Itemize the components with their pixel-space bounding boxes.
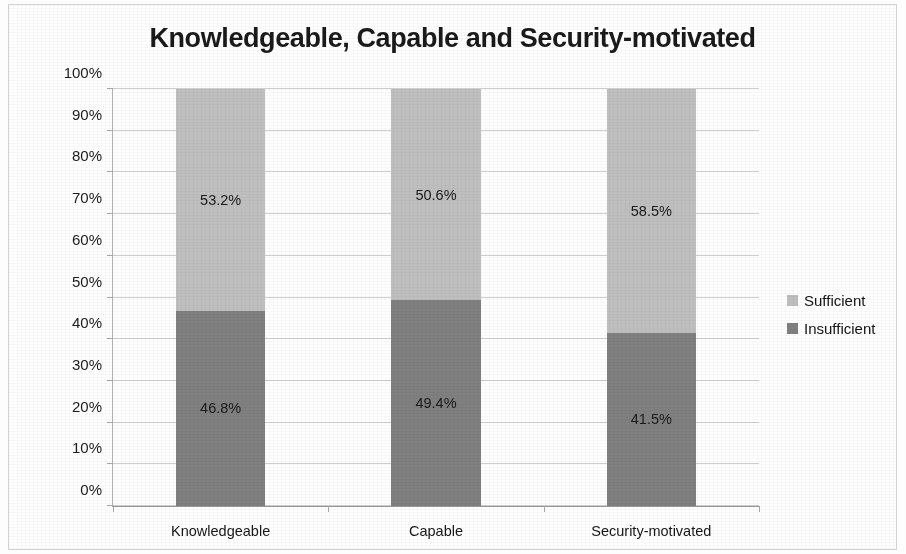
y-axis-label: 20%	[72, 397, 102, 414]
chart-frame: Knowledgeable, Capable and Security-moti…	[8, 4, 897, 550]
chart-legend: SufficientInsufficient	[787, 286, 902, 342]
legend-swatch-icon	[787, 323, 798, 334]
legend-label: Sufficient	[804, 292, 865, 309]
bar-segment-insufficient[interactable]: 46.8%	[176, 311, 265, 506]
bar-segment-sufficient[interactable]: 58.5%	[607, 89, 696, 333]
y-axis-tick	[107, 380, 113, 381]
x-axis-category-label: Knowledgeable	[171, 523, 270, 539]
y-axis-label: 0%	[80, 481, 102, 498]
x-axis-tick	[113, 506, 114, 512]
y-axis-label: 80%	[72, 147, 102, 164]
chart-title: Knowledgeable, Capable and Security-moti…	[9, 23, 896, 54]
x-axis-tick	[759, 506, 760, 512]
bar-segment-sufficient[interactable]: 50.6%	[391, 89, 480, 300]
bar-segment-sufficient[interactable]: 53.2%	[176, 89, 265, 311]
x-axis-tick	[544, 506, 545, 512]
y-axis-label: 100%	[64, 64, 102, 81]
chart-page: Knowledgeable, Capable and Security-moti…	[0, 0, 906, 554]
y-axis-label: 50%	[72, 272, 102, 289]
legend-label: Insufficient	[804, 320, 875, 337]
x-axis-line	[112, 506, 760, 507]
y-axis-label: 90%	[72, 105, 102, 122]
y-axis-tick	[107, 213, 113, 214]
bar-data-label: 49.4%	[415, 395, 456, 411]
y-axis-label: 70%	[72, 189, 102, 206]
bar-group[interactable]: 46.8%53.2%Knowledgeable	[176, 89, 265, 506]
y-axis-label: 40%	[72, 314, 102, 331]
y-axis-tick	[107, 463, 113, 464]
y-axis-tick	[107, 297, 113, 298]
plot-area: 0%10%20%30%40%50%60%70%80%90%100% 46.8%5…	[113, 89, 759, 506]
bar-data-label: 41.5%	[631, 411, 672, 427]
y-axis-line	[112, 89, 113, 506]
bar-data-label: 53.2%	[200, 192, 241, 208]
y-axis-tick	[107, 130, 113, 131]
x-axis-tick	[328, 506, 329, 512]
x-axis-category-label: Capable	[409, 523, 463, 539]
bar-data-label: 46.8%	[200, 400, 241, 416]
bar-data-label: 50.6%	[415, 187, 456, 203]
legend-item[interactable]: Sufficient	[787, 286, 902, 314]
bar-group[interactable]: 41.5%58.5%Security-motivated	[607, 89, 696, 506]
bar-data-label: 58.5%	[631, 203, 672, 219]
y-axis-tick	[107, 255, 113, 256]
y-axis-tick	[107, 422, 113, 423]
bar-group[interactable]: 49.4%50.6%Capable	[391, 89, 480, 506]
y-axis-tick	[107, 88, 113, 89]
bar-segment-insufficient[interactable]: 41.5%	[607, 333, 696, 506]
legend-item[interactable]: Insufficient	[787, 314, 902, 342]
y-axis-tick	[107, 338, 113, 339]
bar-segment-insufficient[interactable]: 49.4%	[391, 300, 480, 506]
y-axis-tick	[107, 171, 113, 172]
x-axis-category-label: Security-motivated	[591, 523, 711, 539]
legend-swatch-icon	[787, 295, 798, 306]
y-axis-label: 10%	[72, 439, 102, 456]
y-axis-label: 30%	[72, 355, 102, 372]
y-axis-label: 60%	[72, 230, 102, 247]
